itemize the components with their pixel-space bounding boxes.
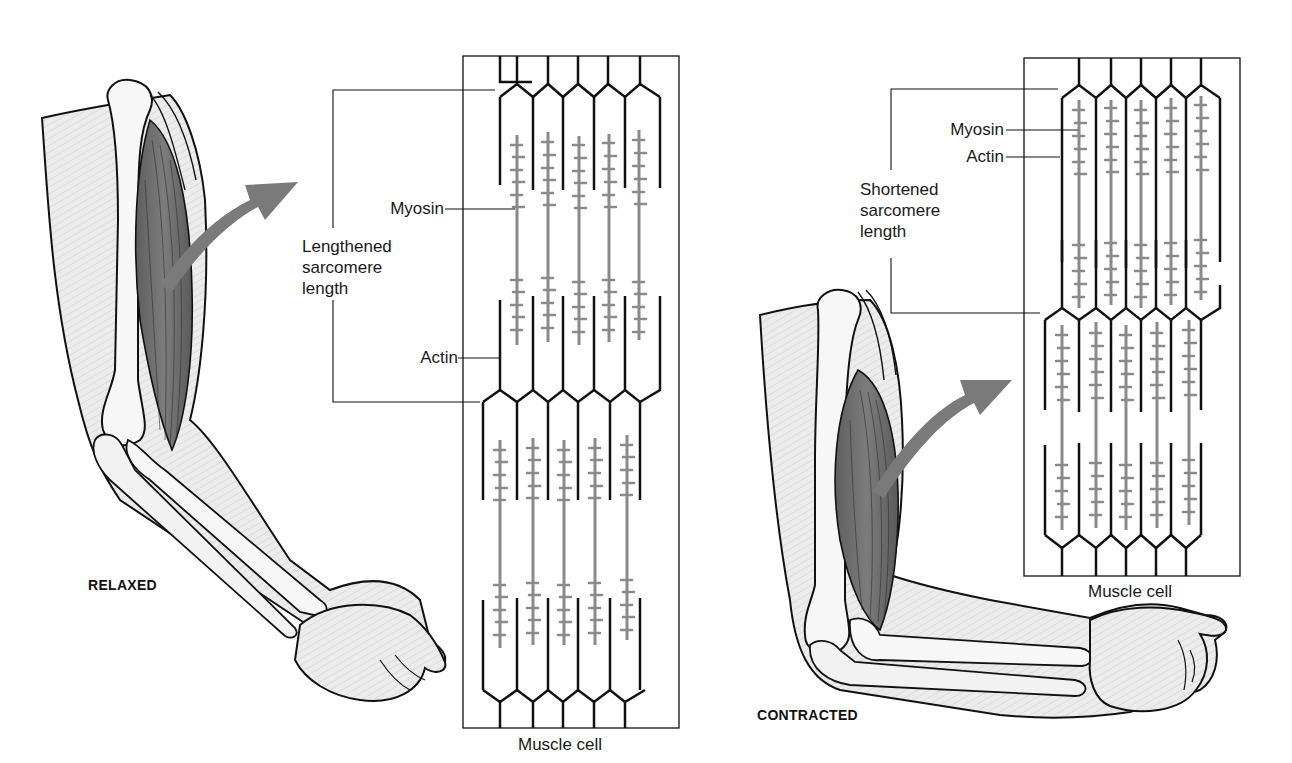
contracted-fist <box>1090 607 1226 711</box>
myosin-label-contracted: Myosin <box>930 119 1004 140</box>
actin-label-relaxed: Actin <box>388 347 458 368</box>
muscle-cell-caption-relaxed: Muscle cell <box>518 734 602 755</box>
muscle-cell-caption-contracted: Muscle cell <box>1088 581 1172 602</box>
actin-label-contracted: Actin <box>940 146 1004 167</box>
sarcomere-length-label-contracted: Shortened sarcomere length <box>860 179 940 242</box>
myosin-label-relaxed: Myosin <box>372 198 444 219</box>
contracted-state-label: CONTRACTED <box>757 707 858 723</box>
diagram-canvas <box>0 0 1292 763</box>
sarcomere-length-label-relaxed: Lengthened sarcomere length <box>302 236 392 299</box>
relaxed-arm-illustration <box>42 80 445 701</box>
relaxed-state-label: RELAXED <box>88 577 157 593</box>
